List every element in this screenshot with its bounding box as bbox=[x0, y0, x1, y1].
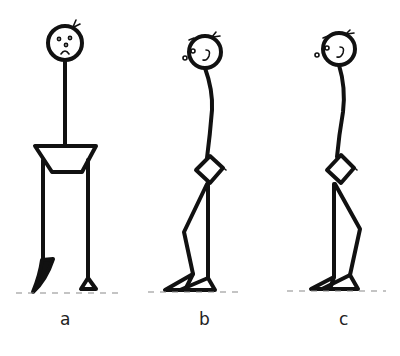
figure-b: b bbox=[148, 32, 242, 329]
eye-c bbox=[325, 46, 329, 50]
figure-c: c bbox=[287, 30, 386, 329]
leg-front-b bbox=[184, 184, 207, 274]
ear-b bbox=[203, 50, 210, 60]
foot-right-a bbox=[81, 278, 96, 289]
pelvis-c bbox=[327, 155, 354, 183]
pelvis-b bbox=[196, 156, 223, 183]
panel-label-a: a bbox=[60, 309, 70, 329]
nose-a bbox=[64, 43, 67, 46]
eye-left-a bbox=[57, 37, 60, 40]
panel-label-b: b bbox=[199, 309, 210, 329]
panel-label-c: c bbox=[339, 309, 348, 329]
spine-c bbox=[337, 65, 344, 157]
pelvis-edge-b bbox=[213, 159, 226, 170]
posture-illustration: a b bbox=[0, 0, 400, 356]
pelvis-edge-c bbox=[344, 158, 357, 170]
nose-c bbox=[315, 53, 319, 57]
hair-tuft-c bbox=[346, 30, 354, 34]
nose-b bbox=[183, 56, 187, 60]
eye-right-a bbox=[68, 36, 71, 39]
frown-mouth-a bbox=[61, 51, 69, 54]
ear-c bbox=[337, 47, 344, 57]
hair-tuft-a bbox=[73, 20, 80, 27]
spine-b bbox=[205, 68, 212, 158]
eye-b bbox=[191, 49, 195, 53]
hair-tuft-b bbox=[212, 32, 220, 37]
foot-left-a bbox=[33, 259, 53, 292]
leg-back-c bbox=[335, 184, 360, 275]
figure-a: a bbox=[16, 20, 122, 329]
